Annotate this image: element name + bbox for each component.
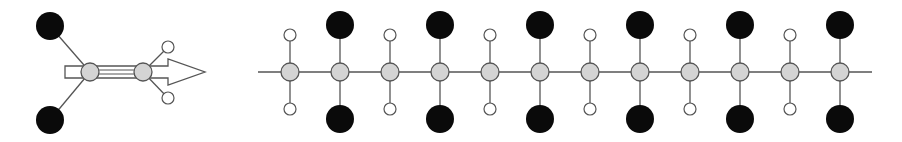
hydrogen-atom: [684, 29, 696, 41]
polymerization-diagram: [0, 0, 902, 142]
hydrogen-atom: [584, 29, 596, 41]
hydrogen-atom: [162, 92, 174, 104]
carbon-atom: [781, 63, 799, 81]
carbon-atom: [381, 63, 399, 81]
hydrogen-atom: [484, 29, 496, 41]
hydrogen-atom: [684, 103, 696, 115]
substituent-atom: [726, 105, 754, 133]
substituent-atom: [726, 11, 754, 39]
hydrogen-atom: [162, 41, 174, 53]
hydrogen-atom: [784, 103, 796, 115]
hydrogen-atom: [784, 29, 796, 41]
hydrogen-atom: [584, 103, 596, 115]
substituent-atom: [426, 11, 454, 39]
carbon-atom: [631, 63, 649, 81]
hydrogen-atom: [384, 29, 396, 41]
substituent-atom: [526, 105, 554, 133]
carbon-atom: [831, 63, 849, 81]
carbon-atom: [681, 63, 699, 81]
carbon-atom: [731, 63, 749, 81]
substituent-atom: [826, 11, 854, 39]
hydrogen-atom: [284, 29, 296, 41]
substituent-atom: [626, 105, 654, 133]
carbon-atom: [481, 63, 499, 81]
carbon-atom: [331, 63, 349, 81]
hydrogen-atom: [384, 103, 396, 115]
carbon-atom: [431, 63, 449, 81]
substituent-atom: [36, 106, 64, 134]
carbon-atom: [581, 63, 599, 81]
substituent-atom: [526, 11, 554, 39]
substituent-atom: [326, 105, 354, 133]
substituent-atom: [36, 12, 64, 40]
hydrogen-atom: [284, 103, 296, 115]
carbon-atom: [81, 63, 99, 81]
carbon-atom: [531, 63, 549, 81]
hydrogen-atom: [484, 103, 496, 115]
substituent-atom: [826, 105, 854, 133]
substituent-atom: [426, 105, 454, 133]
polymer-chain: [258, 11, 872, 133]
monomer-unit: [36, 12, 205, 134]
substituent-atom: [326, 11, 354, 39]
carbon-atom: [134, 63, 152, 81]
carbon-atom: [281, 63, 299, 81]
substituent-atom: [626, 11, 654, 39]
